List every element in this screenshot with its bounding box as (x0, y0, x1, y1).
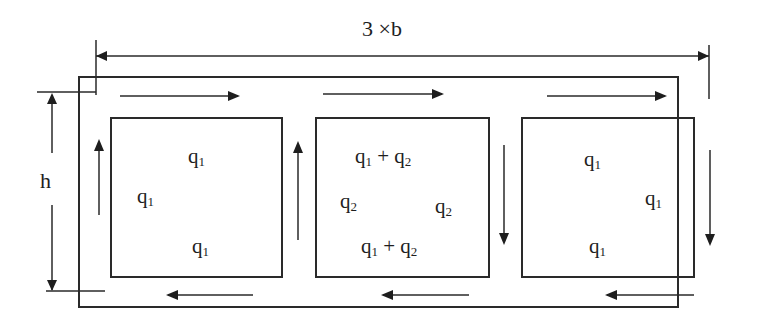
cell-2-left-flow-label: q2 (340, 191, 357, 213)
cell-3-top-flow-label: q1 (584, 149, 601, 171)
height-label: h (40, 170, 51, 192)
bottom-flow-arrows (166, 290, 694, 300)
cell-2-bottom-flow-label: q1 + q2 (361, 236, 417, 258)
cell-2-right-flow-label: q2 (435, 196, 452, 218)
cell-3-bottom-flow-label: q1 (589, 236, 606, 258)
width-label: 3 ×b (362, 18, 402, 40)
top-flow-arrows (120, 89, 667, 101)
cell-2-top-flow-label: q1 + q2 (355, 146, 411, 168)
cell-3-right-flow-label: q1 (645, 188, 662, 210)
cell-3-outline (522, 118, 694, 277)
cell-1-top-flow-label: q1 (188, 146, 205, 168)
width-dimension (37, 40, 709, 99)
cell-1-left-flow-label: q1 (137, 186, 154, 208)
cell-1-bottom-flow-label: q1 (192, 236, 209, 258)
outer-section-outline (79, 77, 678, 307)
height-dimension (46, 93, 105, 291)
